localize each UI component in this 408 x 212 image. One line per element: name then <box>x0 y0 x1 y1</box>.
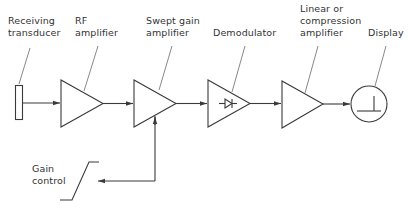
linear-compression-amplifier <box>282 81 323 128</box>
label-line: amplifier <box>300 27 361 39</box>
diode-icon <box>219 99 237 108</box>
display-trace-icon <box>357 96 381 111</box>
label-gain-control: Gain control <box>32 163 66 187</box>
label-rf-amplifier: RF amplifier <box>75 15 118 39</box>
label-line: amplifier <box>146 27 200 39</box>
label-demodulator: Demodulator <box>213 27 276 39</box>
label-linear-compression-amplifier: Linear or compression amplifier <box>300 3 361 39</box>
leader-receiving-transducer <box>19 48 30 84</box>
label-line: amplifier <box>75 27 118 39</box>
leader-display <box>375 46 386 86</box>
label-line: Receiving <box>8 15 60 27</box>
rf-amplifier <box>61 80 103 127</box>
label-line: Demodulator <box>213 27 276 39</box>
leader-swept-gain-amplifier <box>159 46 172 90</box>
label-line: Display <box>368 27 404 39</box>
label-line: transducer <box>8 27 60 39</box>
label-line: control <box>32 175 66 187</box>
label-swept-gain-amplifier: Swept gain amplifier <box>146 15 200 39</box>
leader-demodulator <box>232 46 245 92</box>
display <box>351 86 387 122</box>
leader-linear-amplifier <box>305 46 318 93</box>
gain-control-ramp-icon <box>60 162 99 200</box>
label-display: Display <box>368 27 404 39</box>
label-line: RF <box>75 15 118 27</box>
receiving-transducer <box>16 86 23 120</box>
label-line: compression <box>300 15 361 27</box>
label-receiving-transducer: Receiving transducer <box>8 15 60 39</box>
leader-rf-amplifier <box>84 46 98 91</box>
label-line: Swept gain <box>146 15 200 27</box>
label-line: Linear or <box>300 3 361 15</box>
label-line: Gain <box>32 163 66 175</box>
block-diagram: Receiving transducer RF amplifier Swept … <box>0 0 408 212</box>
demodulator <box>208 80 250 127</box>
